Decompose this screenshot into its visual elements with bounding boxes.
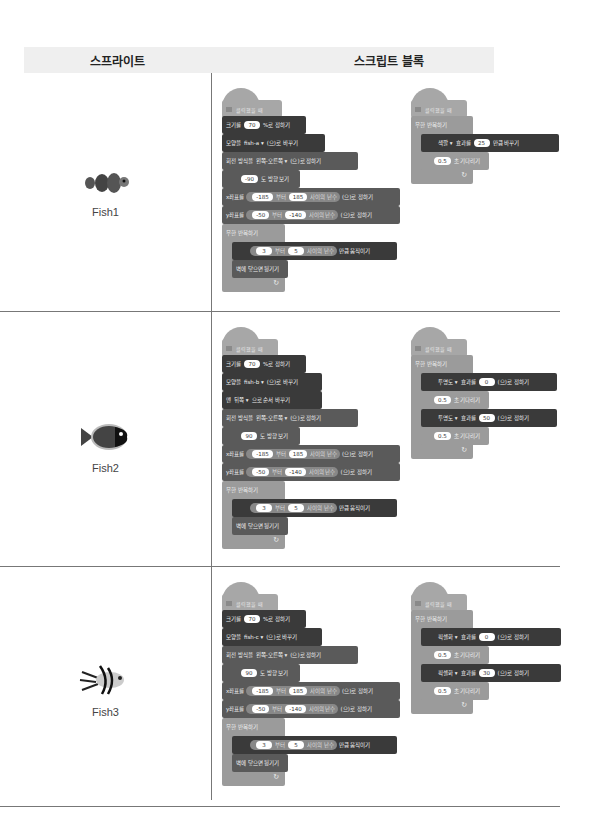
column-divider [211,73,212,800]
sprite-fish1: Fish1 [0,168,211,218]
header-sprite: 스프라이트 [90,52,145,69]
script-fish3-effect: 클릭했을 때 무한 반복하기 픽셀화 ▾효과를0(으)로 정하기 0.5초 기다… [411,590,473,714]
script-fish3-main: 클릭했을 때 크기를70%로 정하기 모양을fish-c ▾(으)로 바꾸기 회… [222,590,400,786]
tang-fish-icon [71,420,141,454]
sprite-fish3: Fish3 [0,662,211,718]
script-fish2-effect: 클릭했을 때 무한 반복하기 투명도 ▾효과를0(으)로 정하기 0.5초 기다… [411,335,473,459]
script-fish2-main: 클릭했을 때 크기를70%로 정하기 모양을fish-b ▾(으)로 바꾸기 맨… [222,335,400,549]
sprite-name: Fish1 [0,206,211,218]
green-flag-icon [226,107,232,112]
row-divider [0,806,560,807]
script-fish1-effect: 클릭했을 때 무한 반복하기 색깔 ▾효과를25만큼 바꾸기 0.5초 기다리기… [411,96,473,184]
row-divider [0,311,560,312]
table-header: 스프라이트 스크립트 블록 [24,47,494,73]
header-script: 스크립트 블록 [354,52,424,69]
script-fish1-main: 클릭했을 때 크기를70%로 정하기 모양을fish-a ▾(으)로 바꾸기 회… [222,96,400,292]
sprite-name: Fish3 [0,706,211,718]
cardinalfish-icon [76,662,136,698]
sprite-fish2: Fish2 [0,420,211,474]
row-divider [0,566,560,567]
clownfish-icon [76,168,136,198]
sprite-name: Fish2 [0,462,211,474]
